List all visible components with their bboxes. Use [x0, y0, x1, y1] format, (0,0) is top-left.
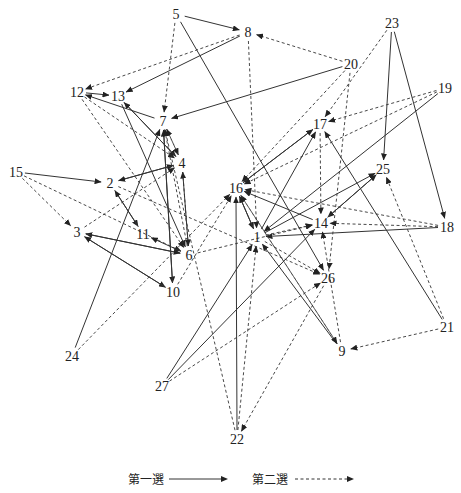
edge-3-to-4	[85, 168, 175, 227]
node-8: 8	[245, 25, 252, 40]
edge-8-to-13	[126, 36, 240, 92]
node-10: 10	[166, 285, 180, 300]
node-17: 17	[313, 117, 327, 132]
edge-27-to-26	[170, 283, 321, 381]
legend-dashed-arrow-icon	[294, 474, 354, 484]
legend-second-choice-label: 第二選	[252, 470, 288, 488]
legend-first-choice-label: 第一選	[128, 470, 164, 488]
node-2: 2	[107, 176, 114, 191]
node-9: 9	[339, 344, 346, 359]
node-4: 4	[179, 156, 186, 171]
edge-5-to-7	[164, 23, 175, 112]
edge-23-to-18	[394, 32, 444, 219]
edge-22-to-7	[165, 130, 235, 430]
edge-12-to-13	[86, 93, 109, 95]
edge-27-to-1	[167, 245, 252, 379]
edge-5-to-8	[185, 16, 240, 30]
node-11: 11	[136, 227, 149, 242]
edge-1-to-16	[240, 196, 254, 228]
edge-15-to-2	[25, 173, 101, 182]
node-21: 21	[440, 320, 454, 335]
edge-5-to-26	[181, 22, 324, 270]
node-19: 19	[438, 81, 452, 96]
node-13: 13	[111, 89, 125, 104]
node-18: 18	[440, 220, 454, 235]
edge-15-to-6	[24, 176, 181, 251]
edge-9-to-1	[262, 244, 336, 344]
edge-20-to-16	[242, 71, 345, 182]
edge-23-to-25	[384, 32, 392, 160]
legend: 第一選 第二選	[0, 470, 461, 490]
edge-15-to-3	[22, 178, 70, 225]
edge-10-to-3	[85, 237, 166, 287]
node-7: 7	[160, 114, 167, 129]
nodes-layer: 1234567891011121314151617181920212223242…	[8, 6, 456, 447]
edge-1-to-26	[265, 242, 320, 274]
node-24: 24	[65, 349, 79, 364]
node-27: 27	[155, 379, 169, 394]
edge-3-to-6	[86, 234, 180, 253]
sociogram: 1234567891011121314151617181920212223242…	[0, 0, 461, 470]
node-20: 20	[344, 57, 358, 72]
edge-1-to-17	[261, 132, 315, 229]
edge-24-to-16	[78, 194, 229, 349]
node-15: 15	[9, 165, 23, 180]
node-23: 23	[385, 16, 399, 31]
edge-22-to-1	[238, 246, 256, 430]
node-26: 26	[321, 271, 335, 286]
node-6: 6	[186, 248, 193, 263]
node-22: 22	[230, 432, 244, 447]
edge-8-to-12	[86, 35, 240, 89]
node-12: 12	[70, 85, 84, 100]
edge-20-to-7	[172, 67, 343, 119]
node-14: 14	[314, 216, 328, 231]
node-1: 1	[254, 230, 261, 245]
edge-4-to-2	[119, 165, 174, 180]
node-25: 25	[376, 162, 390, 177]
legend-solid-arrow-icon	[168, 474, 228, 484]
node-5: 5	[173, 7, 180, 22]
edge-22-to-16	[236, 197, 237, 430]
edge-18-to-1	[266, 228, 438, 237]
edge-19-to-17	[329, 91, 437, 122]
edge-8-to-1	[248, 41, 256, 228]
edge-23-to-17	[325, 30, 387, 116]
node-16: 16	[229, 181, 243, 196]
node-3: 3	[74, 225, 81, 240]
edge-21-to-9	[351, 329, 438, 349]
edge-14-to-25	[328, 175, 376, 217]
edge-21-to-25	[386, 177, 443, 318]
edge-20-to-8	[257, 35, 343, 62]
edge-17-to-14	[320, 133, 321, 214]
edges-layer	[22, 16, 444, 431]
